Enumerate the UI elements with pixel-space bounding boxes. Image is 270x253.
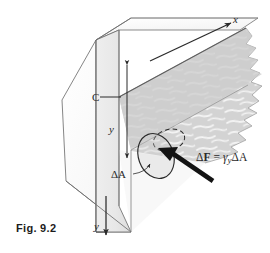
- figure-caption: Fig. 9.2: [16, 222, 56, 234]
- force-equation-label: ΔF=γyΔA: [196, 152, 247, 165]
- figure-9-2: x y C y ΔA ΔF=γyΔA Fig. 9.2: [0, 0, 270, 253]
- x-axis-label: x: [233, 14, 238, 25]
- elemental-area-label: ΔA: [111, 169, 126, 180]
- force-equation-equals: =: [210, 151, 223, 163]
- centroid-label: C: [92, 92, 99, 103]
- y-axis-label: y: [94, 221, 99, 232]
- depth-dimension-label: y: [109, 124, 114, 135]
- dam-hydrostatic-force-diagram: [0, 0, 270, 253]
- force-equation-delta-a: ΔA: [231, 151, 247, 163]
